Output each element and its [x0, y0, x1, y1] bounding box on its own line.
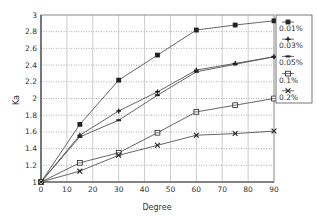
y-tick-label: 1.8: [25, 111, 37, 120]
filled-square-marker-icon: [77, 122, 82, 127]
series-line: [41, 21, 274, 182]
series-line: [41, 57, 274, 182]
x-tick-label: 60: [192, 185, 202, 194]
x-tick-label: 0: [39, 185, 44, 194]
y-tick-label: 1.6: [25, 127, 37, 136]
filled-square-marker-icon: [116, 78, 121, 83]
y-tick-label: 1: [32, 178, 37, 187]
y-tick-label: 2: [32, 94, 37, 103]
filled-square-marker-icon: [155, 53, 160, 58]
x-tick-label: 30: [114, 185, 124, 194]
filled-square-marker-icon: [233, 23, 238, 28]
y-tick-label: 2.8: [25, 27, 37, 36]
data-series: [39, 18, 277, 184]
legend: 0.01%0.03%0.05%0.1%0.2%: [276, 15, 312, 103]
dash-marker-icon: [77, 136, 82, 138]
x-tick-label: 40: [140, 185, 150, 194]
series-0.1%: [39, 96, 277, 184]
y-axis-label: Ka: [12, 95, 21, 105]
legend-label: 0.2%: [279, 93, 298, 102]
dash-marker-icon: [155, 94, 160, 96]
x-tick-label: 80: [243, 185, 253, 194]
dash-marker-icon: [286, 55, 291, 57]
y-tick-label: 1.4: [25, 144, 37, 153]
x-tick-label: 10: [62, 185, 72, 194]
y-tick-label: 2.4: [25, 61, 37, 70]
dash-marker-icon: [194, 71, 199, 73]
grid-lines: [41, 15, 274, 182]
y-tick-label: 2.2: [25, 77, 37, 86]
x-tick-label: 50: [166, 185, 176, 194]
dash-marker-icon: [233, 63, 238, 65]
plus-marker-icon: [116, 109, 121, 114]
series-0.05%: [39, 56, 277, 183]
series-0.01%: [39, 18, 277, 184]
series-0.03%: [39, 54, 277, 184]
series-line: [41, 57, 274, 182]
x-tick-label: 70: [217, 185, 227, 194]
legend-label: 0.03%: [279, 41, 303, 50]
filled-square-marker-icon: [194, 28, 199, 33]
y-tick-label: 3: [32, 11, 37, 20]
line-chart: 11.21.41.61.822.22.42.62.830102030405060…: [0, 0, 317, 217]
tick-labels: 11.21.41.61.822.22.42.62.830102030405060…: [25, 11, 279, 195]
legend-label: 0.1%: [279, 76, 298, 85]
plus-marker-icon: [155, 89, 160, 94]
x-axis-label: Degree: [142, 203, 171, 212]
x-tick-label: 90: [269, 185, 279, 194]
series-0.2%: [39, 129, 277, 185]
y-tick-label: 1.2: [25, 161, 37, 170]
y-tick-label: 2.6: [25, 44, 37, 53]
legend-label: 0.05%: [279, 58, 303, 67]
dash-marker-icon: [116, 119, 121, 121]
x-tick-label: 20: [88, 185, 98, 194]
legend-label: 0.01%: [279, 24, 303, 33]
series-line: [41, 131, 274, 182]
